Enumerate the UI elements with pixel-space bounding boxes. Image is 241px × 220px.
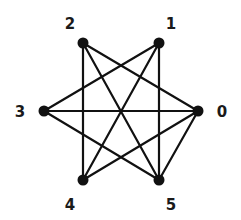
node-2 [78,38,89,49]
node-5 [154,175,165,186]
node-0 [193,106,204,117]
edge-layer [44,43,198,180]
node-label-3: 3 [15,103,25,121]
node-1 [154,38,165,49]
node-label-1: 1 [166,15,176,33]
node-3 [39,106,50,117]
node-label-2: 2 [65,15,75,33]
graph-diagram: 012345 [0,0,241,220]
node-label-4: 4 [65,196,75,214]
node-label-5: 5 [166,196,176,214]
edge-0-5 [159,111,198,180]
node-4 [78,175,89,186]
node-label-0: 0 [217,103,227,121]
